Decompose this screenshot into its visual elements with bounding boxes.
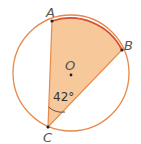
circle-diagram: A B C O 42° [0, 0, 141, 144]
angle-label: 42° [53, 90, 74, 104]
label-c: C [43, 130, 53, 144]
label-o: O [65, 58, 75, 73]
point-o [70, 74, 73, 77]
point-c [46, 125, 49, 128]
label-b: B [124, 38, 133, 53]
label-a: A [45, 5, 55, 20]
